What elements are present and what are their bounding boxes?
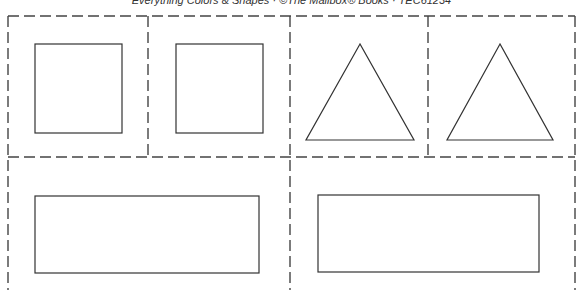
card-1-square [35, 44, 122, 133]
card-2-square [176, 44, 263, 133]
card-5-rectangle [35, 196, 259, 273]
card-6-rectangle [318, 195, 539, 272]
card-3-triangle [306, 44, 414, 140]
card-4-triangle [447, 44, 553, 140]
shape-cards-sheet [0, 0, 583, 290]
cut-lines [8, 16, 575, 290]
